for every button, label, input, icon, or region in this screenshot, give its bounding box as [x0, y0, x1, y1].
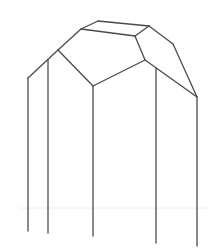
prism-vertical-edges — [28, 60, 197, 246]
crystal-diagram — [0, 0, 217, 249]
edge-D-G — [81, 29, 135, 36]
edge-C-K — [58, 50, 93, 86]
edge-D-E — [81, 21, 98, 29]
edge-E-F — [98, 21, 149, 26]
termination-edges — [28, 21, 197, 97]
edge-F-H — [149, 26, 173, 44]
edge-C-D — [58, 29, 81, 50]
edge-A-C — [28, 50, 58, 78]
edge-G-J — [135, 36, 145, 60]
edge-G-F — [135, 26, 149, 36]
edge-K-J — [93, 60, 145, 86]
